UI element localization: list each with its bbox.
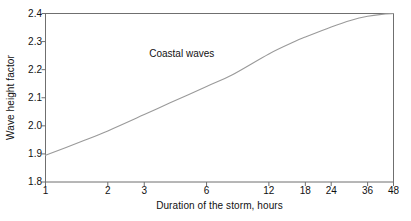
y-axis-ticks <box>42 14 46 183</box>
series-line-coastal-waves <box>46 14 394 156</box>
x-tick-label: 48 <box>382 186 406 196</box>
y-tick-label: 1.9 <box>16 149 42 159</box>
x-axis-title: Duration of the storm, hours <box>45 200 394 211</box>
x-tick-label: 24 <box>319 186 343 196</box>
y-axis-title: Wave height factor <box>3 13 19 182</box>
plot-frame <box>46 14 394 183</box>
x-tick-label: 6 <box>195 186 219 196</box>
x-axis-tick-labels: 12361218243648 <box>0 186 411 200</box>
x-tick-label: 12 <box>257 186 281 196</box>
y-tick-label: 2.2 <box>16 65 42 75</box>
series-annotation-coastal-waves: Coastal waves <box>149 48 214 59</box>
x-tick-label: 1 <box>34 186 58 196</box>
y-tick-label: 2.3 <box>16 37 42 47</box>
x-tick-label: 18 <box>293 186 317 196</box>
x-tick-label: 3 <box>132 186 156 196</box>
y-tick-label: 2.1 <box>16 93 42 103</box>
chart-figure: 1.81.92.02.12.22.32.4 12361218243648 Wav… <box>0 0 411 221</box>
y-tick-label: 2.4 <box>16 9 42 19</box>
y-tick-label: 2.0 <box>16 121 42 131</box>
x-tick-label: 2 <box>96 186 120 196</box>
x-tick-label: 36 <box>356 186 380 196</box>
